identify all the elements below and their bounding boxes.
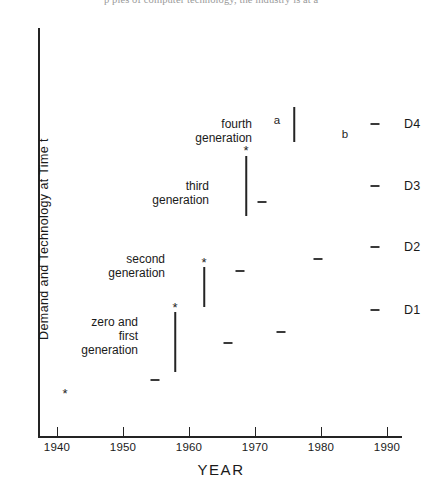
data-point-asterisk: * [243,144,248,157]
generation-annotation: second generation [108,252,165,280]
data-point-asterisk: * [62,387,67,400]
data-point-dash [371,309,380,311]
data-point-stem [245,156,247,216]
generation-annotation: fourth generation [195,117,252,145]
x-axis-line [38,436,402,438]
x-axis-tick [189,427,190,436]
data-point-dash [371,246,380,248]
x-axis-tick-label: 1940 [44,441,70,453]
x-axis-tick-label: 1950 [110,441,136,453]
data-point-letter-a: a [274,114,280,126]
generation-annotation: third generation [152,179,209,207]
demand-level-label-D3: D3 [404,179,421,193]
data-point-dash [224,342,233,344]
data-point-stem [293,107,295,142]
generation-annotation: zero and first generation [81,315,138,357]
data-point-dash [277,331,286,333]
y-axis-label: Demand and Technology at Time t [37,109,51,369]
data-point-dash [371,185,380,187]
x-axis-tick [57,427,58,436]
data-point-stem [174,312,176,372]
x-axis-tick [321,427,322,436]
x-axis-label: YEAR [0,461,442,478]
data-point-stem [203,267,205,307]
x-axis-tick [387,427,388,436]
x-axis-tick [123,427,124,436]
x-axis-tick-label: 1960 [176,441,202,453]
data-point-dash [314,258,323,260]
x-axis-tick-label: 1980 [308,441,334,453]
x-axis-tick [255,427,256,436]
data-point-dash [258,201,267,203]
data-point-letter-b: b [342,128,348,140]
x-axis-tick-label: 1970 [242,441,268,453]
demand-level-label-D4: D4 [404,117,421,131]
x-axis-tick-label: 1990 [374,441,400,453]
demand-level-label-D2: D2 [404,240,421,254]
demand-level-label-D1: D1 [404,303,421,317]
chart-plot-area: Demand and Technology at Time t YEAR 194… [0,0,442,492]
data-point-dash [371,123,380,125]
data-point-dash [151,379,160,381]
data-point-dash [236,270,245,272]
